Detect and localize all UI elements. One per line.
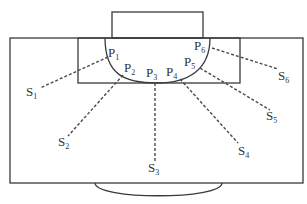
point-label-p1: P1 <box>108 45 119 62</box>
point-label-p3: P3 <box>146 65 157 82</box>
connection-line-p6-s6 <box>212 48 278 69</box>
connection-line-p2-s2 <box>68 75 123 136</box>
point-label-p5: P5 <box>184 54 195 71</box>
sensor-label-s6: S6 <box>278 68 289 85</box>
main-body <box>10 38 303 183</box>
sensor-label-s4: S4 <box>238 143 249 160</box>
top-block <box>112 12 203 38</box>
point-label-p4: P4 <box>166 64 177 81</box>
sensor-label-s2: S2 <box>58 134 69 151</box>
inner-region <box>78 38 240 83</box>
connection-line-p5-s5 <box>200 68 270 110</box>
connection-line-p4-s4 <box>180 79 238 143</box>
sensor-label-s1: S1 <box>26 84 37 101</box>
point-label-p2: P2 <box>124 60 135 77</box>
sensor-label-s5: S5 <box>266 108 277 125</box>
diagram-canvas: P1 P2 P3 P4 P5 P6 S1 S2 S3 S4 S5 S6 <box>0 0 307 204</box>
sensor-label-s3: S3 <box>148 160 159 177</box>
point-label-p6: P6 <box>194 38 205 55</box>
bottom-lens <box>95 183 222 196</box>
